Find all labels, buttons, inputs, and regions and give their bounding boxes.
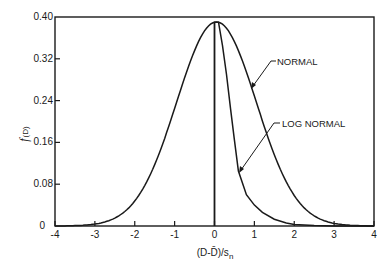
x-tick-label: 2 <box>291 229 297 240</box>
x-tick-label: 3 <box>331 229 337 240</box>
x-tick-label: -4 <box>51 229 60 240</box>
distribution-chart: -4-3-2-10123400.080.160.240.320.40 NORMA… <box>0 0 390 266</box>
annotation-normal: NORMAL <box>251 56 318 89</box>
y-tick-label: 0.40 <box>34 11 54 22</box>
y-tick-label: 0.24 <box>34 95 54 106</box>
x-axis-label: (D-D̄)/sn <box>197 246 234 261</box>
x-tick-label: -1 <box>170 229 179 240</box>
x-tick-label: 1 <box>252 229 258 240</box>
normal-label: NORMAL <box>277 56 318 67</box>
x-tick-label: -2 <box>130 229 139 240</box>
y-axis-label: f(D) <box>17 126 31 142</box>
annotation-log-normal: LOG NORMAL <box>239 118 345 173</box>
y-tick-label: 0.08 <box>34 178 54 189</box>
x-tick-label: -3 <box>90 229 99 240</box>
y-tick-label: 0 <box>39 220 45 231</box>
y-tick-label: 0.32 <box>34 53 54 64</box>
x-tick-label: 4 <box>371 229 377 240</box>
x-tick-label: 0 <box>212 229 218 240</box>
leader-line <box>241 123 280 170</box>
log-normal-label: LOG NORMAL <box>282 118 345 129</box>
leader-line <box>253 61 276 86</box>
y-tick-label: 0.16 <box>34 136 54 147</box>
